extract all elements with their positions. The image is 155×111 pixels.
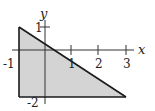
y-tick-label-neg2: -2: [27, 96, 39, 110]
x-axis-label: x: [138, 42, 146, 57]
x-tick-label-1: 1: [68, 57, 76, 71]
x-tick-label-2: 2: [95, 57, 103, 71]
x-tick-label-3: 3: [123, 57, 131, 71]
y-tick-label-1: 1: [35, 21, 43, 35]
x-tick-label-neg1: -1: [3, 57, 15, 71]
y-axis-label: y: [39, 6, 48, 21]
region-diagram: y x 1 -2 -1 1 2 3: [0, 0, 155, 111]
